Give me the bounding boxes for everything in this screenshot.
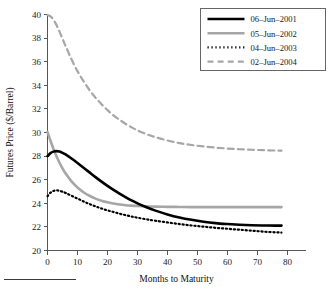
y-tick-label: 22 [32, 222, 41, 232]
y-tick-label: 28 [32, 151, 42, 161]
x-tick-label: 0 [45, 257, 50, 267]
chart-plot-area: 202224262830323436384001020304050607080M… [0, 0, 331, 292]
x-axis-title: Months to Maturity [139, 274, 214, 284]
legend-label-02-jun-2004: 02–Jun–2004 [251, 57, 298, 67]
y-tick-label: 36 [32, 57, 42, 67]
x-tick-label: 40 [163, 257, 173, 267]
y-tick-label: 40 [32, 10, 42, 20]
legend-label-05-jun-2002: 05–Jun–2002 [251, 29, 297, 39]
legend-label-06-jun-2001: 06–Jun–2001 [251, 14, 297, 24]
y-tick-label: 20 [32, 246, 42, 256]
x-tick-label: 10 [73, 257, 83, 267]
y-tick-label: 34 [32, 81, 42, 91]
x-tick-label: 50 [193, 257, 203, 267]
legend-label-04-jun-2003: 04–Jun–2003 [251, 43, 297, 53]
footnote-separator-rule [4, 279, 76, 280]
y-tick-label: 32 [32, 104, 41, 114]
futures-price-chart-figure: 202224262830323436384001020304050607080M… [0, 0, 331, 292]
series-line-05-jun-2002 [48, 132, 282, 207]
y-tick-label: 26 [32, 175, 42, 185]
x-tick-label: 80 [283, 257, 293, 267]
x-tick-label: 60 [223, 257, 233, 267]
x-tick-label: 70 [253, 257, 263, 267]
y-tick-label: 30 [32, 128, 42, 138]
x-tick-label: 30 [133, 257, 143, 267]
x-tick-label: 20 [103, 257, 113, 267]
y-tick-label: 38 [32, 33, 42, 43]
series-line-06-jun-2001 [48, 151, 282, 225]
y-axis-title: Futures Price ($/Barrel) [5, 87, 16, 177]
y-tick-label: 24 [32, 199, 42, 209]
